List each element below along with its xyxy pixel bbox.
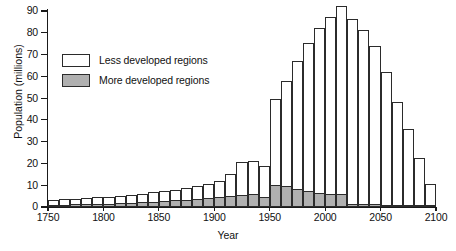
bar-segment-more-developed-1860 (170, 200, 181, 207)
x-axis-title: Year (0, 230, 456, 241)
x-tick-label-1850: 1850 (139, 211, 179, 223)
bar-2000 (325, 17, 336, 207)
bar-segment-less-developed-2010 (336, 6, 347, 207)
bar-segment-more-developed-2050 (381, 205, 392, 207)
bar-1870 (181, 188, 192, 207)
x-tick-label-1800: 1800 (83, 211, 123, 223)
y-tick-label-90: 90 (8, 5, 38, 16)
x-tick-label-2050: 2050 (361, 211, 401, 223)
legend-item-less-developed: Less developed regions (62, 52, 209, 69)
bar-1980 (303, 43, 314, 207)
y-tick-10 (41, 185, 47, 186)
bar-1900 (214, 181, 225, 207)
bar-segment-less-developed-2040 (369, 46, 380, 207)
more-developed-swatch (62, 74, 90, 87)
bar-segment-more-developed-2060 (392, 205, 403, 207)
bar-segment-more-developed-1830 (137, 202, 148, 207)
bar-2040 (369, 46, 380, 207)
y-tick-80 (41, 32, 47, 33)
y-tick-label-10: 10 (8, 180, 38, 191)
bar-segment-less-developed-1980 (303, 43, 314, 207)
bar-segment-less-developed-2000 (325, 17, 336, 207)
bar-segment-more-developed-1900 (214, 197, 225, 207)
y-tick-label-50: 50 (8, 93, 38, 104)
y-tick-50 (41, 98, 47, 99)
bar-segment-more-developed-1780 (81, 204, 92, 207)
bar-segment-more-developed-1930 (248, 194, 259, 207)
population-bar-chart: Population (millions) 010203040506070809… (0, 0, 456, 251)
bar-segment-less-developed-2080 (414, 158, 425, 207)
bar-1950 (270, 99, 281, 207)
bar-segment-more-developed-1960 (281, 186, 292, 207)
bar-segment-more-developed-2000 (325, 194, 336, 208)
bar-1910 (225, 174, 236, 207)
legend-item-more-developed: More developed regions (62, 72, 209, 89)
y-tick-label-60: 60 (8, 71, 38, 82)
y-tick-label-70: 70 (8, 49, 38, 60)
y-tick-label-20: 20 (8, 158, 38, 169)
bar-1970 (292, 61, 303, 207)
bar-segment-more-developed-1880 (192, 199, 203, 207)
bar-segment-less-developed-2090 (425, 184, 436, 207)
bar-segment-more-developed-1790 (92, 204, 103, 207)
bar-segment-more-developed-1920 (236, 195, 247, 207)
less-developed-swatch (62, 54, 90, 67)
bar-1820 (126, 195, 137, 207)
y-tick-60 (41, 76, 47, 77)
bar-segment-more-developed-2030 (358, 204, 369, 207)
legend-label-more-developed: More developed regions (99, 75, 209, 86)
bar-segment-more-developed-1840 (148, 202, 159, 207)
bar-1960 (281, 81, 292, 207)
bar-1850 (159, 191, 170, 207)
legend-label-less-developed: Less developed regions (99, 55, 208, 66)
bar-1880 (192, 186, 203, 207)
y-tick-0 (41, 206, 47, 207)
bar-segment-less-developed-1970 (292, 61, 303, 207)
bar-segment-less-developed-2060 (392, 102, 403, 207)
x-tick-label-1900: 1900 (194, 211, 234, 223)
bar-segment-more-developed-1810 (115, 203, 126, 207)
bar-2010 (336, 6, 347, 207)
bar-1920 (236, 162, 247, 207)
bar-segment-more-developed-2020 (347, 204, 358, 207)
bar-segment-more-developed-1890 (203, 198, 214, 207)
bar-segment-more-developed-2070 (403, 205, 414, 207)
chart-legend: Less developed regions More developed re… (62, 52, 209, 92)
plot-area (48, 11, 436, 207)
bar-2090 (425, 184, 436, 207)
bar-1780 (81, 198, 92, 207)
bar-segment-more-developed-1800 (103, 204, 114, 207)
x-tick-label-1750: 1750 (28, 211, 68, 223)
x-tick-label-2000: 2000 (305, 211, 345, 223)
bar-1760 (59, 199, 70, 207)
x-tick-label-2100: 2100 (416, 211, 456, 223)
bar-1860 (170, 190, 181, 207)
bar-segment-more-developed-2090 (425, 205, 436, 207)
bar-segment-more-developed-2010 (336, 194, 347, 207)
y-tick-40 (41, 119, 47, 120)
bar-segment-more-developed-1850 (159, 201, 170, 207)
bar-1930 (248, 161, 259, 207)
bar-2080 (414, 158, 425, 207)
bar-segment-more-developed-1770 (70, 204, 81, 207)
y-tick-label-30: 30 (8, 136, 38, 147)
bar-1830 (137, 194, 148, 207)
bar-segment-less-developed-2070 (403, 129, 414, 207)
bar-segment-more-developed-1990 (314, 193, 325, 207)
y-tick-30 (41, 141, 47, 142)
bar-1840 (148, 192, 159, 207)
bar-1940 (259, 166, 270, 207)
bar-segment-more-developed-2080 (414, 205, 425, 207)
bar-segment-less-developed-2020 (347, 19, 358, 207)
x-tick-label-1950: 1950 (250, 211, 290, 223)
bar-segment-more-developed-1950 (270, 185, 281, 207)
bar-1770 (70, 199, 81, 207)
y-tick-label-80: 80 (8, 27, 38, 38)
bar-2060 (392, 102, 403, 207)
bar-segment-less-developed-2050 (381, 72, 392, 207)
bar-segment-less-developed-1990 (314, 28, 325, 207)
bar-segment-more-developed-1910 (225, 196, 236, 207)
bar-segment-more-developed-2040 (369, 204, 380, 207)
bar-1990 (314, 28, 325, 207)
bar-segment-more-developed-1940 (259, 197, 270, 207)
